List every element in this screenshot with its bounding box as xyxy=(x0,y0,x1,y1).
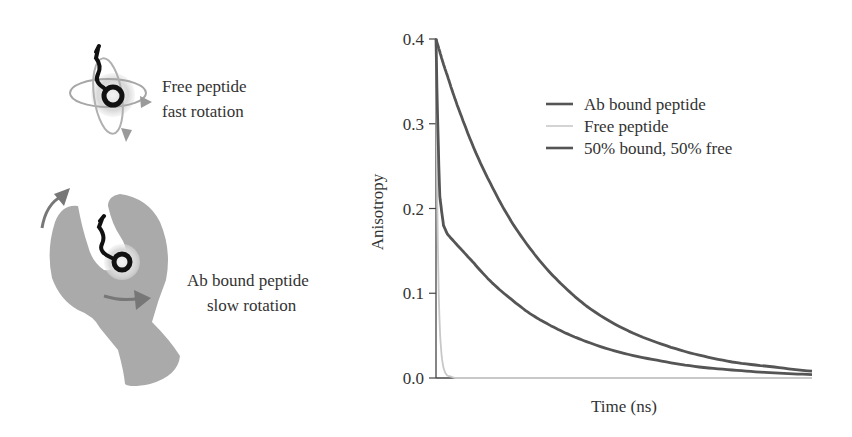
legend-item-free: Free peptide xyxy=(546,117,669,136)
x-axis-title: Time (ns) xyxy=(591,397,657,416)
legend-item-mixed: 50% bound, 50% free xyxy=(546,139,732,158)
legend: Ab bound peptide Free peptide 50% bound,… xyxy=(546,95,732,158)
anisotropy-chart: 0.00.10.20.30.4 Anisotropy Time (ns) Ab … xyxy=(0,0,852,437)
svg-text:Ab bound peptide: Ab bound peptide xyxy=(584,95,706,114)
legend-item-ab-bound: Ab bound peptide xyxy=(546,95,706,114)
y-axis-title: Anisotropy xyxy=(368,173,387,250)
y-tick-label: 0.2 xyxy=(403,200,424,219)
y-axis: 0.00.10.20.30.4 xyxy=(403,30,436,388)
y-tick-label: 0.0 xyxy=(403,369,424,388)
series-line-free-peptide xyxy=(436,39,812,378)
svg-text:Free peptide: Free peptide xyxy=(584,117,669,136)
series-line-ab-bound-peptide xyxy=(436,39,812,371)
y-tick-label: 0.3 xyxy=(403,115,424,134)
y-tick-label: 0.4 xyxy=(403,30,425,49)
series-line-50-bound-50-free xyxy=(436,39,812,375)
y-tick-label: 0.1 xyxy=(403,284,424,303)
series-lines xyxy=(436,39,812,378)
svg-text:50% bound, 50% free: 50% bound, 50% free xyxy=(584,139,732,158)
